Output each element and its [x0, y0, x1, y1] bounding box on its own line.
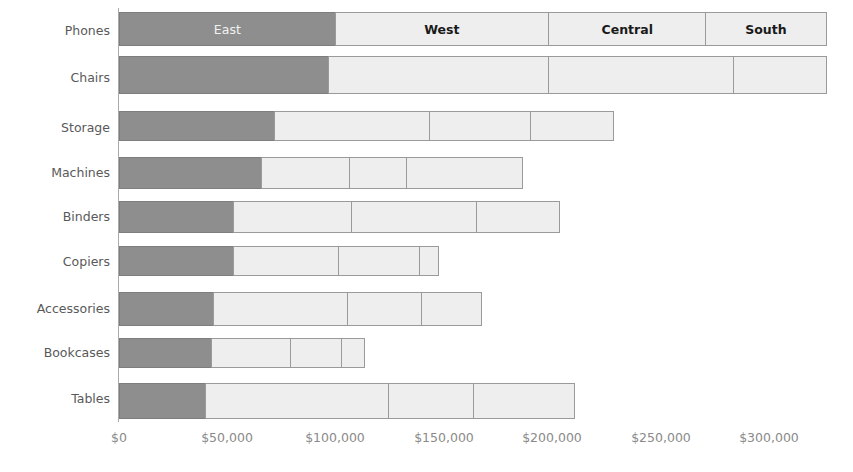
bar-row: [119, 157, 523, 189]
series-label-central: Central: [602, 22, 653, 37]
bar-segment-west[interactable]: [233, 246, 339, 276]
bar-segment-central[interactable]: [338, 246, 420, 276]
bar-segment-west[interactable]: [328, 56, 549, 94]
category-label-bookcases: Bookcases: [0, 347, 110, 360]
category-label-copiers: Copiers: [0, 256, 110, 269]
bar-segment-central[interactable]: [429, 111, 531, 141]
bar-row: [119, 292, 482, 326]
series-label-south: South: [745, 22, 786, 37]
bar-segment-west[interactable]: [233, 201, 352, 233]
bar-row: [119, 201, 560, 233]
bar-row: [119, 111, 614, 141]
series-label-west: West: [424, 22, 459, 37]
bar-segment-east[interactable]: [119, 338, 212, 368]
bar-segment-east[interactable]: [119, 292, 214, 326]
bar-segment-west[interactable]: [205, 383, 389, 419]
category-label-storage: Storage: [0, 122, 110, 135]
bar-segment-east[interactable]: [119, 111, 275, 141]
bar-row: EastWestCentralSouth: [119, 12, 827, 46]
bar-segment-west[interactable]: [274, 111, 430, 141]
bar-segment-central[interactable]: [349, 157, 408, 189]
x-tick-label: $150,000: [414, 430, 474, 445]
bar-segment-south[interactable]: [341, 338, 365, 368]
bar-segment-east[interactable]: East: [119, 12, 336, 46]
x-tick-label: $200,000: [522, 430, 582, 445]
bar-segment-south[interactable]: [530, 111, 615, 141]
x-tick-label: $0: [111, 430, 127, 445]
bar-segment-south[interactable]: [476, 201, 561, 233]
bar-row: [119, 338, 365, 368]
bar-segment-west[interactable]: [213, 292, 347, 326]
bar-segment-central[interactable]: Central: [548, 12, 706, 46]
category-label-tables: Tables: [0, 393, 110, 406]
bar-segment-west[interactable]: West: [335, 12, 550, 46]
bar-segment-central[interactable]: [347, 292, 423, 326]
bar-segment-central[interactable]: [548, 56, 734, 94]
bar-segment-east[interactable]: [119, 246, 234, 276]
category-label-chairs: Chairs: [0, 72, 110, 85]
category-label-accessories: Accessories: [0, 303, 110, 316]
bar-row: [119, 246, 439, 276]
bar-segment-central[interactable]: [290, 338, 342, 368]
bar-segment-central[interactable]: [351, 201, 477, 233]
bar-segment-south[interactable]: [733, 56, 826, 94]
bar-row: [119, 383, 575, 419]
bar-segment-south[interactable]: South: [705, 12, 826, 46]
x-tick-label: $100,000: [305, 430, 365, 445]
category-label-machines: Machines: [0, 167, 110, 180]
stacked-bar-chart: PhonesChairsStorageMachinesBindersCopier…: [0, 0, 853, 472]
category-label-phones: Phones: [0, 25, 110, 38]
bar-segment-west[interactable]: [211, 338, 291, 368]
x-tick-label: $250,000: [631, 430, 691, 445]
bar-segment-south[interactable]: [419, 246, 439, 276]
bar-segment-east[interactable]: [119, 157, 262, 189]
x-tick-label: $50,000: [201, 430, 253, 445]
bar-segment-central[interactable]: [388, 383, 475, 419]
x-tick-label: $300,000: [739, 430, 799, 445]
bar-segment-south[interactable]: [406, 157, 523, 189]
bar-row: [119, 56, 827, 94]
bar-segment-west[interactable]: [261, 157, 350, 189]
bar-segment-south[interactable]: [421, 292, 482, 326]
bar-segment-south[interactable]: [473, 383, 575, 419]
bar-segment-east[interactable]: [119, 383, 206, 419]
bar-segment-east[interactable]: [119, 201, 234, 233]
bar-segment-east[interactable]: [119, 56, 329, 94]
category-label-binders: Binders: [0, 211, 110, 224]
series-label-east: East: [214, 22, 241, 37]
